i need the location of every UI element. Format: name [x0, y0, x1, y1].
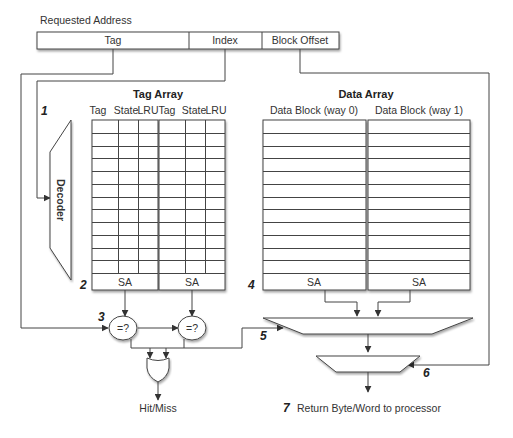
col-lru-0: LRU [137, 104, 158, 116]
decoder-label: Decoder [55, 179, 67, 221]
data-array-way-0 [263, 120, 366, 290]
data-way-1-label: Data Block (way 1) [375, 104, 463, 116]
step-6: 6 [423, 366, 430, 380]
byte-select-mux [316, 356, 420, 372]
address-field-block-offset: Block Offset [272, 34, 328, 46]
hit-miss-label: Hit/Miss [139, 402, 176, 414]
step-7: 7 [283, 401, 291, 415]
col-tag-1: Tag [159, 104, 176, 116]
return-label: Return Byte/Word to processor [297, 402, 441, 414]
comparator-1-label: =? [186, 322, 198, 334]
data-way-0-label: Data Block (way 0) [270, 104, 358, 116]
step-5: 5 [260, 329, 267, 343]
data-sa-0: SA [307, 276, 321, 288]
tag-array-way-1 [159, 120, 225, 290]
step-3: 3 [98, 310, 105, 324]
cache-diagram: Requested Address Tag Index Block Offset… [0, 0, 513, 438]
data-sa-1: SA [412, 276, 426, 288]
step-2: 2 [79, 278, 87, 292]
address-caption: Requested Address [40, 14, 132, 26]
or-gate [147, 358, 169, 382]
col-lru-1: LRU [205, 104, 226, 116]
tag-array-title: Tag Array [133, 88, 184, 100]
address-field-tag: Tag [105, 34, 122, 46]
step-4: 4 [247, 278, 255, 292]
tag-sa-0: SA [118, 276, 132, 288]
data-array-title: Data Array [338, 88, 394, 100]
comparator-0-label: =? [117, 322, 129, 334]
way-select-mux [263, 318, 473, 334]
address-field-index: Index [212, 34, 238, 46]
step-1: 1 [41, 104, 48, 118]
col-tag-0: Tag [90, 104, 107, 116]
tag-sa-1: SA [185, 276, 199, 288]
col-state-1: State [182, 104, 207, 116]
tag-array-way-0 [92, 120, 158, 290]
col-state-0: State [114, 104, 139, 116]
data-array-way-1 [368, 120, 470, 290]
